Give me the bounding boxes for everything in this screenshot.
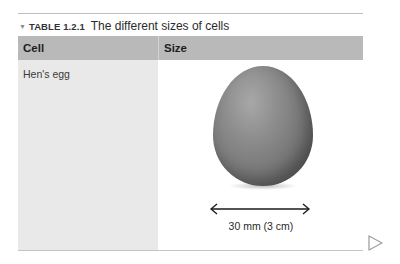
table-row-size: 30 mm (3 cm) <box>159 60 363 250</box>
bottom-divider <box>18 250 363 251</box>
column-divider <box>158 36 159 60</box>
collapse-triangle-icon[interactable]: ▼ <box>19 23 26 30</box>
page: ▼ TABLE 1.2.1 The different sizes of cel… <box>0 0 400 264</box>
cell-name: Hen's egg <box>23 68 70 80</box>
next-play-triangle-icon[interactable] <box>366 234 384 252</box>
top-divider <box>18 13 363 14</box>
size-measurement: 30 mm (3 cm) <box>159 220 363 232</box>
table-caption[interactable]: ▼ TABLE 1.2.1 The different sizes of cel… <box>19 18 229 34</box>
column-header-size: Size <box>164 36 187 60</box>
egg-image <box>213 66 313 186</box>
table-number: TABLE 1.2.1 <box>29 21 85 32</box>
egg-shape <box>213 66 313 186</box>
column-header-cell: Cell <box>23 36 44 60</box>
cell-sizes-table: Cell Size Hen's egg 30 mm (3 cm) <box>18 36 363 250</box>
table-header-row: Cell Size <box>18 36 363 60</box>
double-arrow-icon <box>209 203 311 215</box>
table-row-cell-name: Hen's egg <box>18 60 158 250</box>
table-title: The different sizes of cells <box>91 19 230 33</box>
